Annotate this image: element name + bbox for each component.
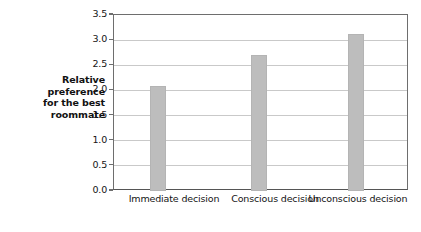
y-tick-label-3.5: 3.5 — [77, 8, 107, 19]
y-tick-label-wrap: 3.0 — [74, 33, 107, 45]
plot-area — [113, 14, 408, 190]
y-tick-label-wrap: 2.5 — [74, 58, 107, 70]
y-tick-label-wrap: 1.0 — [74, 134, 107, 146]
y-tick-label-0.5: 0.5 — [77, 159, 107, 170]
y-axis-title-line-1: Relative — [10, 74, 105, 86]
y-tick-label-wrap: 0.5 — [74, 159, 107, 171]
y-tick-label-2.5: 2.5 — [77, 58, 107, 69]
bars-group — [114, 15, 407, 189]
y-axis-title-line-2: preference — [10, 86, 105, 98]
y-tick-label-1.0: 1.0 — [77, 134, 107, 145]
y-axis-title: Relative preference for the best roommat… — [10, 74, 105, 120]
x-axis-label-1: Conscious decision — [231, 193, 319, 204]
x-axis-labels: Immediate decisionConscious decisionUnco… — [0, 193, 421, 213]
y-tick-label-3.0: 3.0 — [77, 33, 107, 44]
bar-chart-figure: Relative preference for the best roommat… — [0, 0, 421, 232]
x-axis-label-0: Immediate decision — [129, 193, 220, 204]
y-axis-title-line-4: roommate — [10, 109, 105, 121]
bar-0 — [150, 86, 166, 191]
y-axis-title-line-3: for the best — [10, 97, 105, 109]
y-tick-label-wrap: 3.5 — [74, 8, 107, 20]
x-axis-label-2: Unconscious decision — [309, 193, 408, 204]
bar-1 — [251, 55, 267, 191]
bar-2 — [348, 34, 364, 191]
